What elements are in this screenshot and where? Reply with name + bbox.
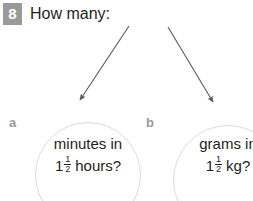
part-text-a: minutes in 1 1 2 hours? xyxy=(36,134,140,175)
fraction-a: 1 2 xyxy=(64,155,71,174)
unit-b: kg? xyxy=(226,156,250,175)
question-number-badge: 8 xyxy=(3,3,22,25)
arrow-to-part-a xyxy=(80,26,129,100)
fraction-denominator-a: 2 xyxy=(64,164,71,174)
part-label-b: b xyxy=(146,116,154,129)
worksheet-question: 8 How many: a minutes in 1 1 2 hours? xyxy=(0,0,253,201)
part-b-line1: grams in xyxy=(199,135,253,152)
arrow-to-part-b xyxy=(168,27,213,102)
part-a-line1: minutes in xyxy=(54,135,122,152)
unit-a: hours? xyxy=(75,156,121,175)
mixed-number-b: 1 1 2 kg? xyxy=(206,156,251,175)
mixed-whole-a: 1 xyxy=(55,156,63,175)
fraction-denominator-b: 2 xyxy=(215,164,222,174)
fraction-numerator-a: 1 xyxy=(64,155,71,164)
mixed-whole-b: 1 xyxy=(206,156,214,175)
part-b-line2: 1 1 2 kg? xyxy=(176,156,253,175)
part-label-a: a xyxy=(9,116,16,129)
part-text-b: grams in 1 1 2 kg? xyxy=(176,134,253,175)
fraction-numerator-b: 1 xyxy=(215,155,222,164)
mixed-number-a: 1 1 2 hours? xyxy=(55,156,121,175)
fraction-b: 1 2 xyxy=(215,155,222,174)
question-heading: How many: xyxy=(30,3,110,25)
part-a-line2: 1 1 2 hours? xyxy=(36,156,140,175)
